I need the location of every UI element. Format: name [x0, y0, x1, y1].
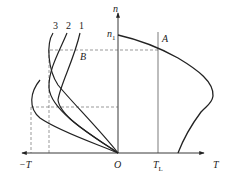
neg-t-label: −T: [19, 160, 31, 170]
curve-label-3: 3: [53, 21, 58, 31]
curve-1: [58, 33, 118, 153]
origin-label: O: [114, 160, 121, 170]
n1-label-sub: 1: [112, 34, 116, 42]
point-b-label: B: [80, 52, 86, 62]
diagram-canvas: [0, 0, 236, 180]
curve-label-2: 2: [66, 21, 71, 31]
curve-label-1: 1: [79, 21, 84, 31]
t-axis-label: T: [213, 160, 219, 170]
point-a-label: A: [162, 34, 168, 44]
n1-label: n1: [107, 29, 116, 42]
curve-3-lower: [32, 80, 118, 153]
tl-label: TL: [153, 160, 163, 173]
motor-curve: [118, 35, 213, 153]
n-axis-label: n: [113, 4, 118, 14]
tl-label-sub: L: [159, 165, 163, 173]
